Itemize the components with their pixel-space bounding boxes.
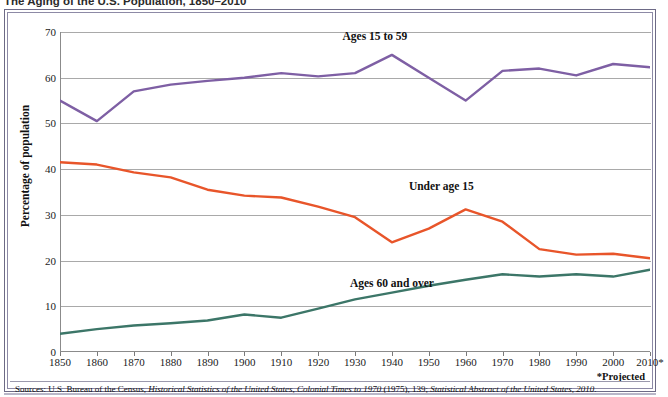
y-tick-label-20: 20 [26, 256, 56, 267]
figure-frame: Percentage of population 010203040506070… [4, 9, 656, 392]
x-axis-tick-labels: 1850186018701880189019001910192019301940… [60, 356, 655, 372]
y-tick-label-40: 40 [26, 164, 56, 175]
source-divider [10, 381, 650, 382]
bottom-rule [4, 393, 656, 395]
series-label-under-age-15: Under age 15 [409, 180, 474, 192]
series-label-ages-60-and-over: Ages 60 and over [350, 277, 434, 289]
series-line-under-age-15 [60, 162, 650, 258]
page-title: The Aging of the U.S. Population, 1850–2… [0, 0, 661, 8]
y-tick-label-70: 70 [26, 27, 56, 38]
chart-series-svg [60, 32, 650, 358]
y-tick-label-50: 50 [26, 118, 56, 129]
y-tick-label-60: 60 [26, 73, 56, 84]
x-tick-label-2010: 2010* [628, 356, 668, 368]
y-axis-tick-labels: 010203040506070 [23, 32, 56, 352]
y-tick-label-30: 30 [26, 210, 56, 221]
series-label-ages-15-to-59: Ages 15 to 59 [343, 30, 408, 42]
chart-plot-wrapper: Ages 15 to 59Under age 15Ages 60 and ove… [60, 32, 650, 352]
series-line-ages-15-to-59 [60, 55, 650, 121]
y-tick-label-10: 10 [26, 301, 56, 312]
